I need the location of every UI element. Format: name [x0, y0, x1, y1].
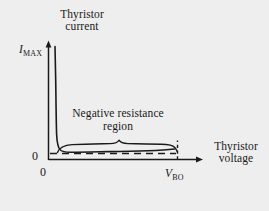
- vbo-subscript: BO: [172, 173, 184, 182]
- characteristic-curve: [55, 47, 175, 153]
- imax-subscript: MAX: [23, 49, 42, 58]
- x-axis-title: Thyristor voltage: [205, 140, 267, 165]
- plot-canvas: [0, 0, 269, 211]
- x-axis-arrowhead: [196, 157, 203, 163]
- x-axis-zero-label: 0: [40, 166, 46, 179]
- region-label-line1: Negative resistance: [72, 107, 164, 119]
- x-axis-vbo-tick-label: VBO: [165, 167, 184, 183]
- negative-resistance-region-label: Negative resistance region: [62, 107, 174, 133]
- y-axis-title-line1: Thyristor: [60, 8, 104, 20]
- x-axis-title-line1: Thyristor: [214, 140, 258, 152]
- thyristor-vi-characteristic-figure: Thyristor current Thyristor voltage IMAX…: [0, 0, 269, 211]
- y-axis-imax-tick-label: IMAX: [19, 43, 42, 59]
- region-label-line2: region: [103, 120, 133, 132]
- x-axis-title-line2: voltage: [219, 152, 254, 164]
- y-axis-title-line2: current: [65, 20, 98, 32]
- y-axis-title: Thyristor current: [46, 8, 118, 33]
- y-axis-arrowhead: [46, 41, 52, 48]
- y-axis-zero-label: 0: [32, 150, 38, 163]
